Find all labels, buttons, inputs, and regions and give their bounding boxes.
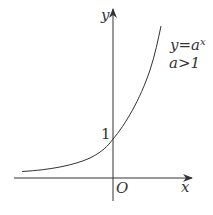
exponential-curve — [22, 26, 161, 172]
y-axis-label: y — [100, 6, 110, 24]
y-intercept-label: 1 — [101, 125, 111, 143]
x-axis-label: x — [181, 178, 190, 196]
condition-label: a>1 — [169, 54, 200, 72]
origin-label: O — [116, 179, 128, 197]
exponential-graph: y x O 1 y=ax a>1 — [0, 0, 213, 215]
equation-label: y=ax — [169, 36, 206, 54]
